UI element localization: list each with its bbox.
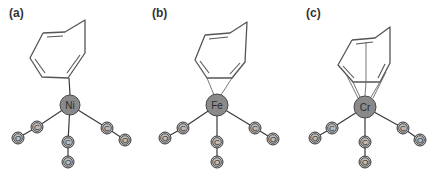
carbon-atom: C (177, 122, 189, 134)
svg-text:O: O (65, 158, 71, 167)
oxygen-atom: O (414, 134, 426, 146)
svg-text:C: C (329, 124, 335, 133)
svg-text:O: O (270, 135, 276, 144)
metal-atom-cr: Cr (354, 96, 376, 118)
oxygen-atom: O (211, 156, 223, 168)
oxygen-atom: O (12, 132, 24, 144)
svg-text:C: C (104, 124, 110, 133)
carbon-atom: C (359, 136, 371, 148)
svg-text:Cr: Cr (360, 102, 371, 113)
svg-text:O: O (214, 158, 220, 167)
svg-text:O: O (417, 136, 423, 145)
oxygen-atom: O (267, 133, 279, 145)
carbon-atom: C (397, 122, 409, 134)
carbon-atom: C (62, 136, 74, 148)
svg-text:O: O (15, 134, 21, 143)
carbon-atom: C (211, 136, 223, 148)
carbon-atom: C (101, 122, 113, 134)
oxygen-atom: O (359, 156, 371, 168)
carbon-atom: C (326, 122, 338, 134)
ring-ligand-c (338, 27, 390, 82)
metal-atom-fe: Fe (206, 94, 228, 116)
svg-text:C: C (214, 138, 220, 147)
svg-text:O: O (122, 136, 128, 145)
svg-text:O: O (162, 134, 168, 143)
svg-text:C: C (65, 138, 71, 147)
panel-a: (a) Ni C O C O C O (9, 6, 131, 168)
svg-text:C: C (180, 124, 186, 133)
oxygen-atom: O (159, 132, 171, 144)
oxygen-atom: O (62, 156, 74, 168)
svg-text:C: C (362, 138, 368, 147)
svg-text:C: C (252, 124, 258, 133)
panel-c-label: (c) (306, 6, 321, 20)
carbon-atom: C (31, 121, 43, 133)
panel-a-label: (a) (9, 6, 24, 20)
metal-atom-ni: Ni (60, 95, 80, 115)
panel-b-label: (b) (152, 6, 167, 20)
eta1-bond (69, 78, 70, 95)
organometallic-diagram: (a) Ni C O C O C O (b) (0, 0, 439, 177)
ring-ligand-b (195, 22, 247, 78)
svg-text:O: O (312, 134, 318, 143)
oxygen-atom: O (309, 132, 321, 144)
panel-b: (b) Fe C O C O C O (152, 6, 279, 168)
oxygen-atom: O (119, 134, 131, 146)
svg-text:C: C (34, 123, 40, 132)
svg-text:C: C (400, 124, 406, 133)
svg-text:Ni: Ni (65, 100, 74, 111)
ring-ligand-a (30, 20, 85, 78)
carbon-atom: C (249, 122, 261, 134)
panel-c: (c) Cr C O C O C O (306, 6, 426, 168)
svg-text:O: O (362, 158, 368, 167)
svg-text:Fe: Fe (211, 100, 223, 111)
